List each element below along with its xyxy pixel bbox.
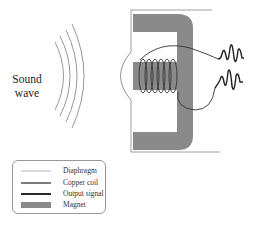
legend-item-magnet: Magnet bbox=[21, 199, 107, 210]
legend: Diaphragm Copper coil Output signal Magn… bbox=[12, 160, 106, 214]
sound-wave-label: Sound wave bbox=[4, 72, 50, 100]
legend-label: Magnet bbox=[63, 200, 86, 209]
output-signals bbox=[215, 45, 244, 90]
legend-label: Output signal bbox=[63, 189, 104, 198]
output-signal-swatch-icon bbox=[21, 190, 51, 198]
sound-label-line2: wave bbox=[4, 86, 50, 100]
legend-label: Diaphragm bbox=[63, 166, 97, 175]
copper-coil-swatch-icon bbox=[21, 179, 51, 187]
legend-item-copper-coil: Copper coil bbox=[21, 177, 107, 188]
magnet-swatch-icon bbox=[21, 201, 51, 209]
diaphragm bbox=[121, 52, 132, 100]
legend-item-diaphragm: Diaphragm bbox=[21, 165, 107, 176]
legend-label: Copper coil bbox=[63, 178, 98, 187]
sound-wave-arcs bbox=[55, 24, 84, 128]
legend-item-output-signal: Output signal bbox=[21, 188, 107, 199]
sound-label-line1: Sound bbox=[4, 72, 50, 86]
diaphragm-swatch-icon bbox=[21, 167, 51, 175]
